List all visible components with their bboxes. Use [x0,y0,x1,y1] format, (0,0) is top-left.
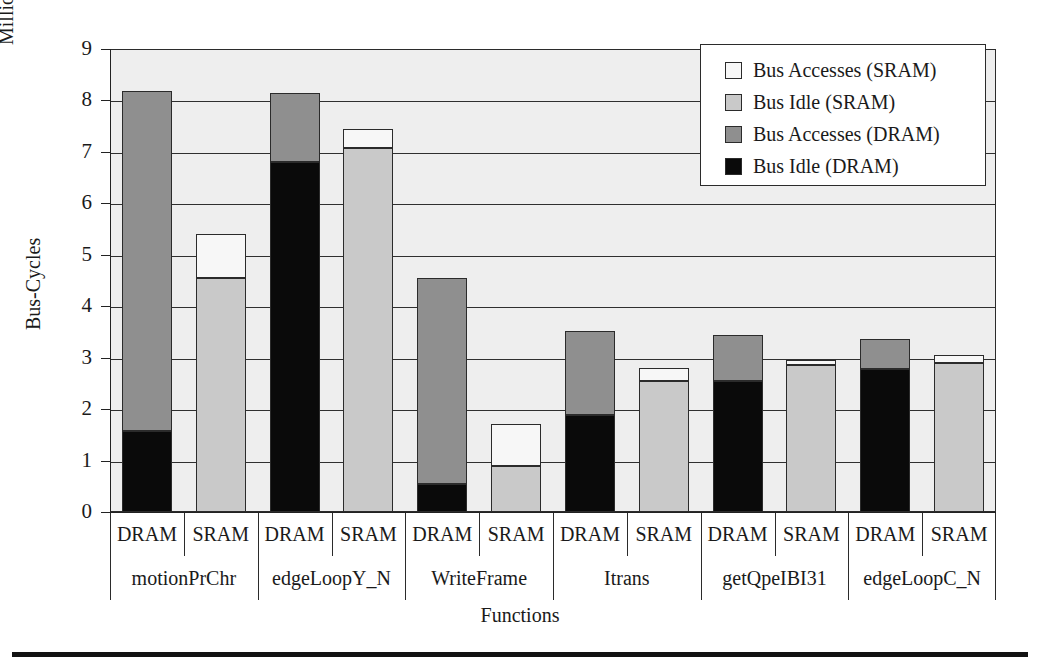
y-axis-tick-label: 8 [62,89,92,110]
legend-label: Bus Idle (DRAM) [753,156,899,176]
x-axis-memory-label-edgeLoopC_N-DRAM: DRAM [848,513,922,556]
x-axis-memory-label-motionPrChr-SRAM: SRAM [184,513,258,556]
x-axis-group-divider [553,556,554,600]
y-axis-tick-label: 2 [62,398,92,419]
y-axis-tick-label: 6 [62,192,92,213]
x-axis-group-divider [995,556,996,600]
x-axis-group-divider [701,556,702,600]
x-axis-divider [775,513,776,556]
y-axis-tick-mark [101,49,110,50]
x-axis-title: Functions [0,604,1040,627]
y-axis-tick-mark [101,358,110,359]
y-axis-tick-mark [101,512,110,513]
legend-item-1: Bus Idle (SRAM) [725,86,985,118]
legend-label: Bus Accesses (DRAM) [753,124,940,144]
x-axis-group-divider [258,556,259,600]
x-axis-divider [258,513,259,556]
x-axis-divider [405,513,406,556]
legend: Bus Accesses (SRAM)Bus Idle (SRAM)Bus Ac… [700,44,986,186]
x-axis-memory-label-Itrans-SRAM: SRAM [627,513,701,556]
y-axis-tick-label: 7 [62,141,92,162]
x-axis-function-label-getQpeIBI31: getQpeIBI31 [701,556,849,600]
x-axis-divider [553,513,554,556]
x-axis-divider [848,513,849,556]
y-axis-tick-mark [101,461,110,462]
y-axis-tick-mark [101,152,110,153]
legend-swatch-icon [725,158,742,175]
x-axis-function-label-motionPrChr: motionPrChr [110,556,258,600]
y-axis-tick-label: 9 [62,38,92,59]
x-axis-memory-label-edgeLoopY_N-DRAM: DRAM [258,513,332,556]
y-axis-tick-mark [101,306,110,307]
y-axis-title: Bus-Cycles [22,238,45,330]
chart-figure: 0123456789 Million Bus-Cycles DRAMSRAMDR… [0,0,1040,668]
legend-swatch-icon [725,126,742,143]
x-axis-memory-label-edgeLoopY_N-SRAM: SRAM [332,513,406,556]
x-axis-memory-label-edgeLoopC_N-SRAM: SRAM [922,513,996,556]
x-axis-function-label-WriteFrame: WriteFrame [405,556,553,600]
legend-label: Bus Idle (SRAM) [753,92,895,112]
x-axis-divider [995,513,996,556]
x-axis-function-label-edgeLoopY_N: edgeLoopY_N [258,556,406,600]
x-axis-group-divider [405,556,406,600]
legend-item-3: Bus Idle (DRAM) [725,150,985,182]
x-axis-memory-label-Itrans-DRAM: DRAM [553,513,627,556]
x-axis-group-divider [110,556,111,600]
x-axis-function-row: motionPrChredgeLoopY_NWriteFrameItransge… [110,556,996,600]
y-axis-tick-label: 5 [62,244,92,265]
y-axis-unit-label: Million [0,0,18,45]
bottom-rule [12,652,1028,657]
y-axis-tick-mark [101,409,110,410]
x-axis-memory-label-WriteFrame-DRAM: DRAM [405,513,479,556]
y-axis-tick-label: 3 [62,347,92,368]
x-axis-group-divider [848,556,849,600]
legend-swatch-icon [725,62,742,79]
legend-label: Bus Accesses (SRAM) [753,60,936,80]
x-axis-divider [184,513,185,556]
y-axis-tick-mark [101,255,110,256]
x-axis-function-label-Itrans: Itrans [553,556,701,600]
y-axis-tick-label: 0 [62,501,92,522]
x-axis-divider [110,513,111,556]
x-axis-divider [922,513,923,556]
x-axis-memory-label-getQpeIBI31-SRAM: SRAM [775,513,849,556]
x-axis-divider [701,513,702,556]
x-axis-divider [627,513,628,556]
x-axis-divider [332,513,333,556]
y-axis-tick-mark [101,100,110,101]
y-axis-tick-mark [101,203,110,204]
legend-item-2: Bus Accesses (DRAM) [725,118,985,150]
y-axis-tick-label: 4 [62,295,92,316]
x-axis-memory-label-motionPrChr-DRAM: DRAM [110,513,184,556]
x-axis-memory-row: DRAMSRAMDRAMSRAMDRAMSRAMDRAMSRAMDRAMSRAM… [110,513,996,556]
x-axis-memory-label-WriteFrame-SRAM: SRAM [479,513,553,556]
y-axis-tick-label: 1 [62,450,92,471]
x-axis-memory-label-getQpeIBI31-DRAM: DRAM [701,513,775,556]
legend-swatch-icon [725,94,742,111]
legend-item-0: Bus Accesses (SRAM) [725,54,985,86]
x-axis-function-label-edgeLoopC_N: edgeLoopC_N [848,556,996,600]
x-axis-divider [479,513,480,556]
